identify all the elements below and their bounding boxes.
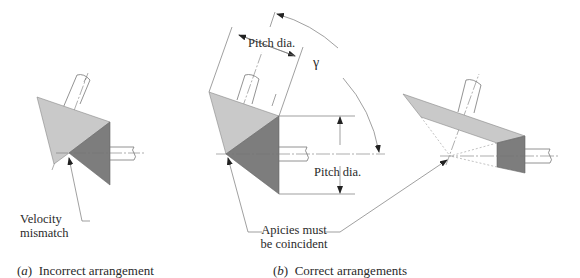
pitch-dia-top-label: Pitch dia.	[248, 36, 295, 50]
shaft-angle-gamma-label: γ	[313, 56, 319, 70]
apicies-coincident-label: Apicies must be coincident	[254, 223, 334, 251]
panel-a-drawing	[37, 73, 146, 221]
caption-a: (a) Incorrect arrangement	[17, 264, 154, 278]
pinion-light-b2	[403, 94, 525, 143]
velocity-mismatch-leader	[69, 158, 90, 221]
caption-b: (b) Correct arrangements	[273, 264, 407, 278]
shaft-angle-arc	[343, 78, 379, 152]
velocity-mismatch-label: Velocity mismatch	[20, 212, 69, 240]
pitch-dia-right-label: Pitch dia.	[314, 165, 361, 179]
panel-b-right-drawing	[403, 74, 558, 173]
